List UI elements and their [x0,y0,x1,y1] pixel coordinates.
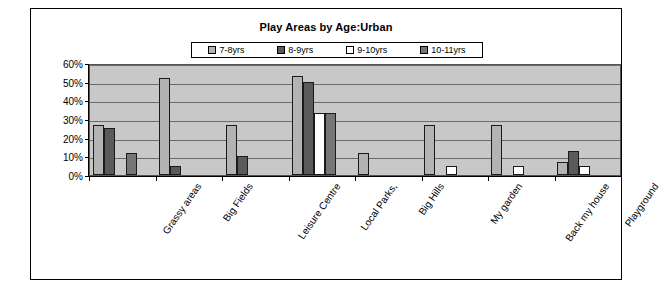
legend-swatch-icon [346,46,354,54]
bar-7-8yrs [93,125,104,175]
bar-8-9yrs [104,128,115,175]
legend-entry-7-8yrs: 7-8yrs [208,45,244,55]
x-axis-tick [289,177,290,181]
bar-10-11yrs [126,153,137,175]
bar-9-10yrs [314,113,325,175]
bar-group [554,65,620,175]
x-axis-label: Big Hills [416,181,446,217]
y-axis-tick-label: 10% [63,152,83,163]
bar-7-8yrs [358,153,369,175]
bar-7-8yrs [557,162,568,175]
x-axis-tick [555,177,556,181]
x-axis-label: Local Parks, [358,181,399,232]
x-axis-label: Big Fields [220,181,254,223]
x-axis-tick [222,177,223,181]
chart-title: Play Areas by Age:Urban [31,21,621,33]
bar-group [223,65,289,175]
bar-group [90,65,156,175]
bar-group [488,65,554,175]
x-axis-label: Playground [622,181,660,229]
bar-group [289,65,355,175]
plot-wrapper [89,64,621,176]
bar-7-8yrs [226,125,237,175]
legend-label: 7-8yrs [219,45,244,55]
legend-swatch-icon [277,46,285,54]
bar-7-8yrs [292,76,303,175]
legend-label: 10-11yrs [431,45,465,55]
bar-9-10yrs [446,166,457,175]
legend-swatch-icon [420,46,428,54]
x-axis-tick [422,177,423,181]
x-axis-label: My garden [488,181,524,226]
x-axis-label: Back my house [563,181,611,243]
bar-10-11yrs [325,113,336,175]
bar-8-9yrs [170,166,181,175]
x-axis-label: Grassy areas [160,181,203,236]
y-axis: 60%50%40%30%20%10%0% [41,64,89,176]
chart-frame: Play Areas by Age:Urban 7-8yrs8-9yrs9-10… [30,8,622,280]
bar-8-9yrs [303,82,314,175]
x-axis-tick [355,177,356,181]
plot-area [89,64,621,176]
y-axis-tick-label: 30% [63,115,83,126]
bar-9-10yrs [579,166,590,175]
chart-legend: 7-8yrs8-9yrs9-10yrs10-11yrs [191,42,483,58]
legend-swatch-icon [208,46,216,54]
legend-label: 8-9yrs [288,45,313,55]
bar-8-9yrs [237,156,248,175]
bar-9-10yrs [513,166,524,175]
x-axis-label: Leisure Centre [296,181,343,241]
x-axis-labels: Grassy areasBig FieldsLeisure CentreLoca… [89,181,621,276]
bar-7-8yrs [491,125,502,175]
bars-layer [90,65,620,175]
bar-8-9yrs [568,151,579,175]
y-axis-tick-label: 20% [63,133,83,144]
x-axis-tick [89,177,90,181]
legend-entry-9-10yrs: 9-10yrs [346,45,387,55]
y-axis-tick-label: 60% [63,59,83,70]
legend-entry-8-9yrs: 8-9yrs [277,45,313,55]
x-axis-tick [621,177,622,181]
bar-group [156,65,222,175]
legend-entry-10-11yrs: 10-11yrs [420,45,465,55]
bar-7-8yrs [159,78,170,175]
x-axis-tick [488,177,489,181]
x-axis-tick [156,177,157,181]
bar-7-8yrs [424,125,435,175]
bar-group [355,65,421,175]
y-axis-tick-label: 0% [69,171,83,182]
legend-label: 9-10yrs [357,45,387,55]
bar-group [421,65,487,175]
y-axis-tick-label: 50% [63,77,83,88]
y-axis-tick-label: 40% [63,96,83,107]
